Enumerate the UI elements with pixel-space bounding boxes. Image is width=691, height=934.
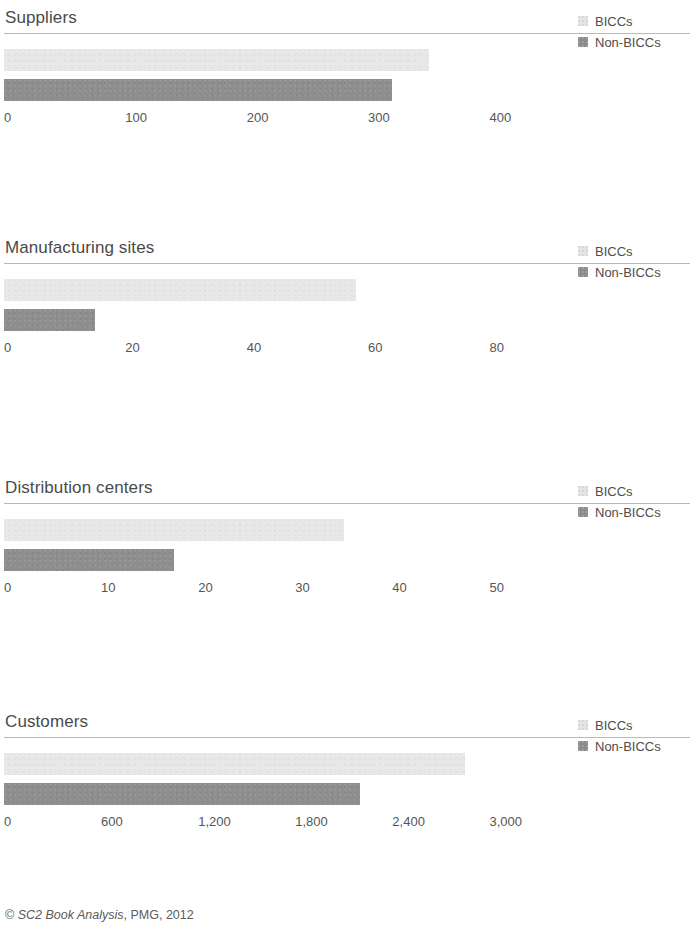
legend: BICCs Non-BICCs (578, 242, 691, 284)
bar-group (4, 518, 564, 580)
chart-page: Suppliers 0100200300400 BICCs Non-BICCs … (0, 0, 691, 934)
chart-panel-suppliers: Suppliers 0100200300400 BICCs Non-BICCs (0, 8, 691, 126)
legend-swatch-non-biccs-icon (578, 741, 588, 751)
x-tick-label: 50 (489, 580, 503, 596)
x-tick-label: 1,800 (295, 814, 328, 830)
x-tick-label: 200 (247, 110, 269, 126)
legend-swatch-biccs-icon (578, 246, 588, 256)
x-tick-label: 40 (247, 340, 261, 356)
chart-panel-customers: Customers 06001,2001,8002,4003,000 BICCs… (0, 712, 691, 830)
legend-label-biccs: BICCs (595, 244, 633, 259)
bar-biccs (4, 279, 356, 301)
x-tick-label: 100 (125, 110, 147, 126)
legend-item-non-biccs: Non-BICCs (578, 503, 691, 521)
bar-non-biccs (4, 783, 360, 805)
bar-group (4, 48, 564, 110)
plot-area: 01020304050 (0, 518, 691, 596)
x-tick-label: 60 (368, 340, 382, 356)
legend-label-biccs: BICCs (595, 484, 633, 499)
legend-item-biccs: BICCs (578, 12, 691, 30)
legend-item-non-biccs: Non-BICCs (578, 737, 691, 755)
x-tick-label: 0 (4, 340, 11, 356)
legend-swatch-non-biccs-icon (578, 37, 588, 47)
source-footnote: © SC2 Book Analysis, PMG, 2012 (5, 908, 194, 922)
legend-item-biccs: BICCs (578, 242, 691, 260)
legend-swatch-non-biccs-icon (578, 267, 588, 277)
plot-area: 020406080 (0, 278, 691, 356)
legend-label-non-biccs: Non-BICCs (595, 505, 661, 520)
bar-non-biccs (4, 549, 174, 571)
copyright-icon: © (5, 908, 14, 922)
x-axis: 020406080 (0, 340, 600, 358)
x-axis: 0100200300400 (0, 110, 600, 128)
x-tick-label: 600 (101, 814, 123, 830)
legend-item-non-biccs: Non-BICCs (578, 33, 691, 51)
legend-label-non-biccs: Non-BICCs (595, 739, 661, 754)
x-tick-label: 300 (368, 110, 390, 126)
plot-area: 06001,2001,8002,4003,000 (0, 752, 691, 830)
x-tick-label: 0 (4, 580, 11, 596)
bar-biccs (4, 753, 465, 775)
legend-label-biccs: BICCs (595, 14, 633, 29)
legend-label-non-biccs: Non-BICCs (595, 35, 661, 50)
x-axis: 06001,2001,8002,4003,000 (0, 814, 600, 832)
x-tick-label: 20 (198, 580, 212, 596)
plot-area: 0100200300400 (0, 48, 691, 126)
source-name: SC2 Book Analysis (18, 908, 124, 922)
legend-swatch-biccs-icon (578, 720, 588, 730)
x-tick-label: 30 (295, 580, 309, 596)
x-tick-label: 2,400 (392, 814, 425, 830)
bar-non-biccs (4, 309, 95, 331)
legend-label-non-biccs: Non-BICCs (595, 265, 661, 280)
bar-group (4, 752, 564, 814)
x-tick-label: 400 (489, 110, 511, 126)
legend-item-biccs: BICCs (578, 716, 691, 734)
x-tick-label: 10 (101, 580, 115, 596)
bar-non-biccs (4, 79, 392, 101)
x-axis: 01020304050 (0, 580, 600, 598)
legend-swatch-biccs-icon (578, 16, 588, 26)
x-tick-label: 0 (4, 110, 11, 126)
x-tick-label: 1,200 (198, 814, 231, 830)
bar-group (4, 278, 564, 340)
source-rest: , PMG, 2012 (124, 908, 194, 922)
chart-panel-manufacturing-sites: Manufacturing sites 020406080 BICCs Non-… (0, 238, 691, 356)
x-tick-label: 40 (392, 580, 406, 596)
legend-swatch-biccs-icon (578, 486, 588, 496)
legend: BICCs Non-BICCs (578, 716, 691, 758)
legend-swatch-non-biccs-icon (578, 507, 588, 517)
x-tick-label: 80 (489, 340, 503, 356)
legend-label-biccs: BICCs (595, 718, 633, 733)
x-tick-label: 3,000 (489, 814, 522, 830)
legend-item-biccs: BICCs (578, 482, 691, 500)
x-tick-label: 0 (4, 814, 11, 830)
x-tick-label: 20 (125, 340, 139, 356)
bar-biccs (4, 519, 344, 541)
bar-biccs (4, 49, 429, 71)
legend: BICCs Non-BICCs (578, 482, 691, 524)
chart-panel-distribution-centers: Distribution centers 01020304050 BICCs N… (0, 478, 691, 596)
legend-item-non-biccs: Non-BICCs (578, 263, 691, 281)
legend: BICCs Non-BICCs (578, 12, 691, 54)
